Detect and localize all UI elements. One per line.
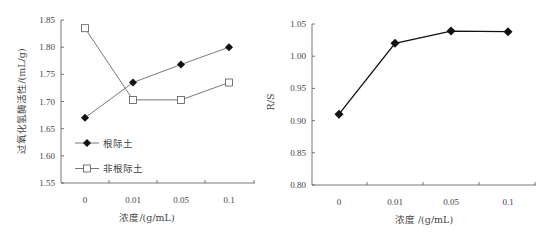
right-ytick: 0.90 <box>290 116 306 126</box>
left-ytick: 1.65 <box>39 124 55 134</box>
left-xtick: 0.05 <box>173 195 189 205</box>
left-xtick: 0.1 <box>223 195 234 205</box>
left-xtick: 0.01 <box>125 195 141 205</box>
left-x-axis-label: 浓度/(g/mL) <box>119 212 174 223</box>
right-ytick: 0.80 <box>290 180 306 190</box>
left-ytick: 1.55 <box>39 178 55 188</box>
series-rhizosphere-line <box>85 47 229 118</box>
left-chart: 1.85 1.80 1.75 1.70 1.65 1.60 1.55 0 0.0… <box>16 15 255 223</box>
left-ytick: 1.60 <box>39 151 55 161</box>
right-xtick: 0 <box>337 197 342 207</box>
right-ytick: 0.95 <box>290 83 306 93</box>
right-x-axis-label: 浓度 /(g/mL) <box>395 214 453 225</box>
series-bulk-soil-line <box>85 28 229 100</box>
left-ytick: 1.80 <box>39 42 55 52</box>
left-xtick: 0 <box>83 195 88 205</box>
chart-canvas: 1.85 1.80 1.75 1.70 1.65 1.60 1.55 0 0.0… <box>0 0 552 241</box>
series-bulk-soil-markers <box>82 25 233 104</box>
right-ytick: 0.85 <box>290 148 306 158</box>
legend-label-bulk-soil: 非根际土 <box>103 163 143 174</box>
series-rs-line <box>339 31 508 114</box>
right-xtick: 0.01 <box>387 197 403 207</box>
right-ytick: 1.05 <box>290 19 306 29</box>
right-chart: 1.05 1.00 0.95 0.90 0.85 0.80 0 0.01 0.0… <box>265 19 536 225</box>
left-ytick: 1.70 <box>39 97 55 107</box>
left-ytick: 1.85 <box>39 15 55 25</box>
left-ytick: 1.75 <box>39 69 55 79</box>
right-ytick: 1.00 <box>290 51 306 61</box>
right-xtick: 0.1 <box>502 197 513 207</box>
series-rs-markers <box>335 27 513 119</box>
left-y-axis-label: 过氧化氢酶活性/(mL/g) <box>16 48 27 153</box>
right-xtick: 0.05 <box>443 197 459 207</box>
legend-label-rhizosphere: 根际土 <box>103 138 133 149</box>
right-y-axis-label: R/S <box>265 94 276 111</box>
legend: 根际土 非根际土 <box>75 138 143 175</box>
series-rhizosphere-markers <box>81 43 233 122</box>
